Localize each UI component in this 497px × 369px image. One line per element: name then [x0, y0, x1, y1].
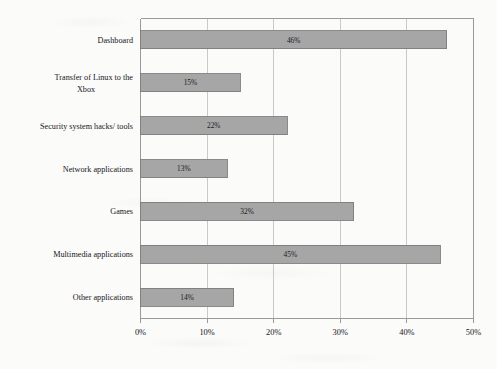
bar-value-label-4: 32% — [240, 207, 254, 216]
bars-group: 46%15%22%13%32%45%14% — [141, 31, 447, 306]
bar-value-label-5: 45% — [284, 250, 298, 259]
category-label-2: Security system hacks/ tools — [40, 122, 133, 131]
category-label-3: Network applications — [63, 165, 133, 174]
horizontal-bar-chart: 46%15%22%13%32%45%14% DashboardTransfer … — [0, 0, 497, 369]
category-label-1-line-1: Xbox — [77, 85, 95, 94]
category-label-6: Other applications — [73, 293, 133, 302]
bar-value-label-0: 46% — [287, 36, 301, 45]
category-label-1-line-0: Transfer of Linux to the — [55, 73, 134, 82]
x-tick-label-0: 0% — [135, 328, 146, 337]
bar-value-label-3: 13% — [177, 164, 191, 173]
bar-value-label-6: 14% — [180, 293, 194, 302]
category-labels-group: DashboardTransfer of Linux to theXboxSec… — [40, 36, 133, 302]
bar-value-label-2: 22% — [207, 121, 221, 130]
x-axis-group: 0%10%20%30%40%50% — [135, 319, 481, 337]
x-tick-label-40: 40% — [399, 328, 414, 337]
category-label-5: Multimedia applications — [53, 250, 133, 259]
x-tick-label-30: 30% — [333, 328, 348, 337]
x-tick-label-50: 50% — [466, 328, 481, 337]
category-label-0: Dashboard — [98, 36, 133, 45]
x-tick-label-20: 20% — [266, 328, 281, 337]
category-label-4: Games — [110, 207, 133, 216]
bar-value-label-1: 15% — [184, 78, 198, 87]
x-tick-label-10: 10% — [199, 328, 214, 337]
